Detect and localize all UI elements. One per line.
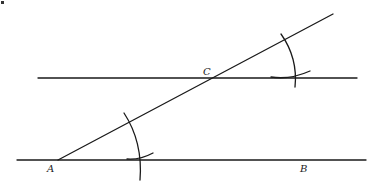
transversal-ac: [58, 14, 333, 160]
label-b: B: [299, 163, 307, 174]
tick-at-c: [271, 71, 310, 78]
corner-mark: [1, 1, 4, 4]
label-c: C: [203, 66, 211, 77]
arc-at-c: [281, 34, 295, 87]
label-a: A: [46, 163, 54, 174]
geometry-diagram: A B C: [0, 0, 381, 182]
